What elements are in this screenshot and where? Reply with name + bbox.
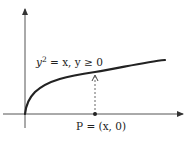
diagram-canvas: y2 = x, y ≥ 0 P = (x, 0) [0,0,188,144]
point-p [93,112,97,116]
curve-label: y2 = x, y ≥ 0 [35,55,103,68]
point-label: P = (x, 0) [76,120,126,132]
